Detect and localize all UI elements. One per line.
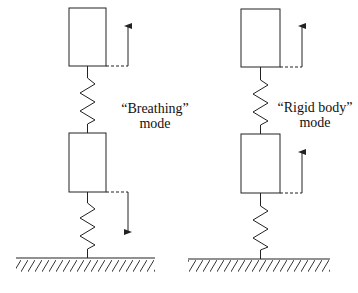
ground-hatch	[16, 259, 155, 277]
upper-mass	[241, 9, 280, 67]
lower-mass	[241, 134, 280, 193]
lower-spring	[253, 193, 268, 259]
upper-mass	[69, 8, 106, 66]
ground-hatch	[188, 260, 330, 278]
breathing-mode-system	[16, 8, 155, 277]
rigid-body-mode-system	[188, 9, 330, 278]
upper-spring	[80, 66, 95, 133]
breathing-mode-label-line2: mode	[139, 116, 170, 131]
rigid-body-mode-label-line1: “Rigid body”	[277, 100, 352, 115]
lower-mass	[69, 133, 106, 192]
upper-spring	[253, 67, 268, 134]
rigid-body-mode-label-line2: mode	[299, 115, 330, 130]
breathing-mode-label-line1: “Breathing”	[121, 101, 189, 116]
lower-spring	[80, 192, 95, 258]
mode-shapes-diagram: “Breathing” mode “Rigid body” mode	[0, 0, 358, 293]
